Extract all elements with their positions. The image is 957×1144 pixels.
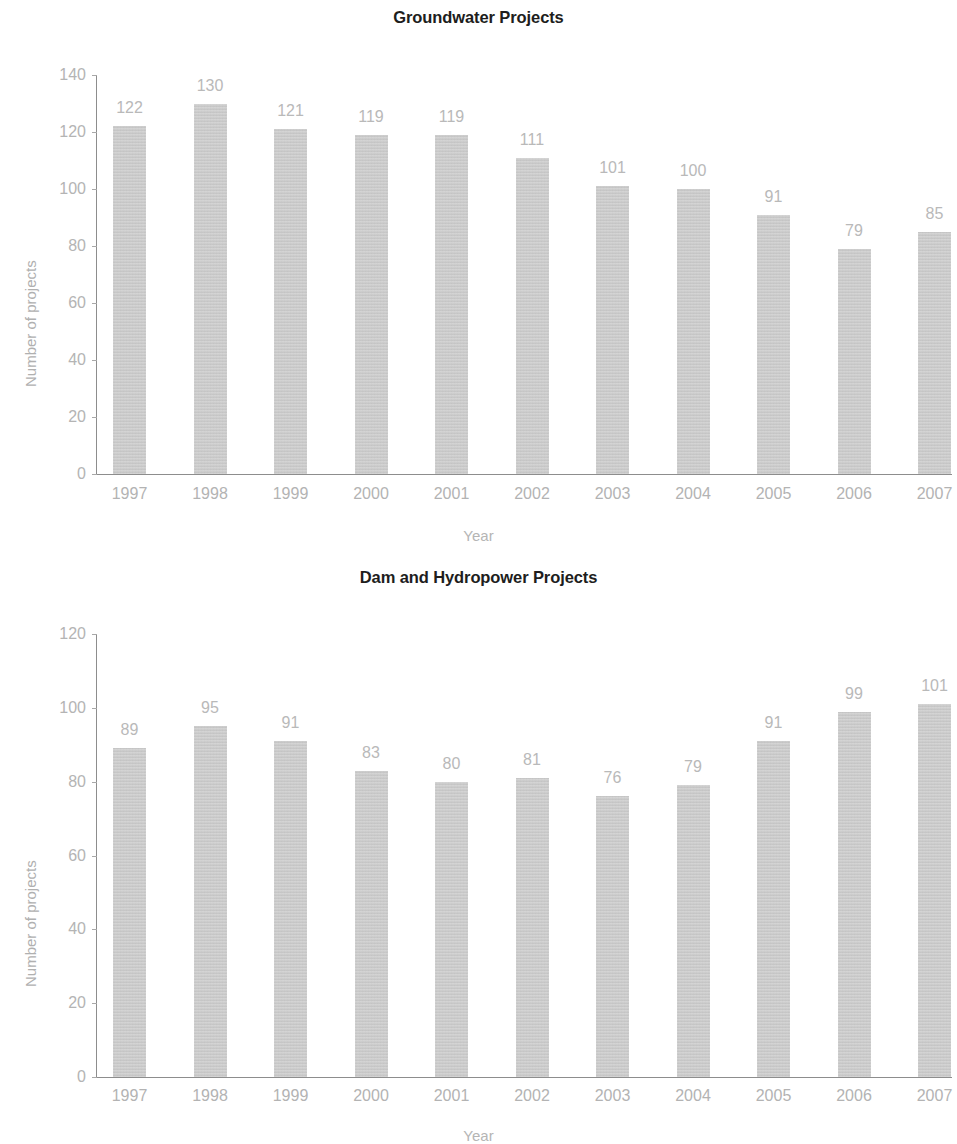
y-axis-tick-mark — [92, 856, 97, 857]
bar — [274, 741, 307, 1077]
bar — [677, 785, 710, 1077]
y-axis-tick-mark — [92, 929, 97, 930]
bar-value-label: 119 — [421, 108, 482, 126]
x-axis-tick-label: 2006 — [820, 1087, 889, 1105]
y-axis-tick-label: 140 — [2, 66, 86, 84]
y-axis-tick-mark — [92, 303, 97, 304]
bar-value-label: 111 — [502, 131, 563, 149]
bar-value-label: 101 — [904, 677, 957, 695]
y-axis-tick-mark — [92, 1077, 97, 1078]
bar-value-label: 76 — [582, 769, 643, 787]
bar-value-label: 99 — [824, 685, 885, 703]
bar-value-label: 91 — [260, 714, 321, 732]
x-axis-title: Year — [0, 1127, 957, 1144]
y-axis-tick-label: 20 — [2, 994, 86, 1012]
y-axis-tick-mark — [92, 782, 97, 783]
bar — [194, 726, 227, 1077]
bar-value-label: 121 — [260, 102, 321, 120]
bar — [918, 232, 951, 474]
bar — [113, 748, 146, 1077]
chart-title-dam-hydropower: Dam and Hydropower Projects — [0, 560, 957, 587]
bar — [516, 778, 549, 1077]
y-axis-tick-mark — [92, 474, 97, 475]
x-axis-tick-label: 2001 — [417, 1087, 486, 1105]
bar-value-label: 91 — [743, 188, 804, 206]
x-axis-tick-label: 2003 — [578, 1087, 647, 1105]
bar — [194, 104, 227, 475]
y-axis-tick-label: 80 — [2, 237, 86, 255]
y-axis-tick-mark — [92, 75, 97, 76]
bar-value-label: 89 — [99, 721, 160, 739]
y-axis-tick-mark — [92, 132, 97, 133]
x-axis-tick-label: 2002 — [498, 485, 567, 503]
bar — [113, 126, 146, 474]
bar-value-label: 85 — [904, 205, 957, 223]
bar-value-label: 119 — [341, 108, 402, 126]
x-axis-tick-label: 2003 — [578, 485, 647, 503]
bar — [596, 796, 629, 1077]
chart-title-groundwater: Groundwater Projects — [0, 0, 957, 27]
x-axis-tick-label: 2005 — [739, 1087, 808, 1105]
bar-value-label: 95 — [180, 699, 241, 717]
bar — [596, 186, 629, 474]
x-axis-tick-label: 2000 — [337, 485, 406, 503]
bar-value-label: 79 — [663, 758, 724, 776]
x-axis-line — [96, 474, 952, 475]
bar — [274, 129, 307, 474]
y-axis-tick-label: 80 — [2, 773, 86, 791]
x-axis-tick-label: 2000 — [337, 1087, 406, 1105]
bar — [516, 158, 549, 474]
bar-value-label: 80 — [421, 755, 482, 773]
x-axis-title: Year — [0, 527, 957, 544]
x-axis-line — [96, 1077, 952, 1078]
bar — [757, 215, 790, 474]
bar-value-label: 122 — [99, 99, 160, 117]
x-axis-tick-label: 2002 — [498, 1087, 567, 1105]
chart-groundwater-projects: Groundwater Projects 020406080100120140N… — [0, 0, 957, 560]
y-axis-tick-label: 40 — [2, 920, 86, 938]
y-axis-tick-label: 40 — [2, 351, 86, 369]
bar-value-label: 100 — [663, 162, 724, 180]
bar — [838, 249, 871, 474]
bar — [355, 135, 388, 474]
y-axis-tick-mark — [92, 246, 97, 247]
bar-value-label: 81 — [502, 751, 563, 769]
bar — [838, 712, 871, 1077]
bar-value-label: 83 — [341, 744, 402, 762]
x-axis-tick-label: 1999 — [256, 1087, 325, 1105]
bar — [435, 782, 468, 1077]
x-axis-tick-label: 2006 — [820, 485, 889, 503]
y-axis-tick-mark — [92, 417, 97, 418]
y-axis-line — [96, 75, 97, 475]
x-axis-tick-label: 2005 — [739, 485, 808, 503]
bar — [677, 189, 710, 474]
y-axis-tick-label: 20 — [2, 408, 86, 426]
y-axis-tick-mark — [92, 634, 97, 635]
y-axis-tick-mark — [92, 708, 97, 709]
y-axis-tick-mark — [92, 189, 97, 190]
y-axis-tick-label: 60 — [2, 847, 86, 865]
bar — [757, 741, 790, 1077]
x-axis-tick-label: 2001 — [417, 485, 486, 503]
bar — [355, 771, 388, 1077]
y-axis-tick-label: 0 — [2, 465, 86, 483]
y-axis-tick-label: 100 — [2, 180, 86, 198]
x-axis-tick-label: 2007 — [900, 1087, 957, 1105]
x-axis-tick-label: 2007 — [900, 485, 957, 503]
y-axis-tick-label: 0 — [2, 1068, 86, 1086]
x-axis-tick-label: 2004 — [659, 485, 728, 503]
bar — [435, 135, 468, 474]
bar — [918, 704, 951, 1077]
y-axis-tick-label: 120 — [2, 123, 86, 141]
bar-value-label: 130 — [180, 77, 241, 95]
chart-dam-hydropower-projects: Dam and Hydropower Projects 020406080100… — [0, 560, 957, 1130]
y-axis-tick-label: 60 — [2, 294, 86, 312]
x-axis-tick-label: 2004 — [659, 1087, 728, 1105]
y-axis-title: Number of projects — [22, 260, 39, 387]
bar-value-label: 101 — [582, 159, 643, 177]
x-axis-tick-label: 1999 — [256, 485, 325, 503]
x-axis-tick-label: 1998 — [176, 1087, 245, 1105]
y-axis-title: Number of projects — [22, 860, 39, 987]
y-axis-tick-label: 100 — [2, 699, 86, 717]
bar-value-label: 79 — [824, 222, 885, 240]
